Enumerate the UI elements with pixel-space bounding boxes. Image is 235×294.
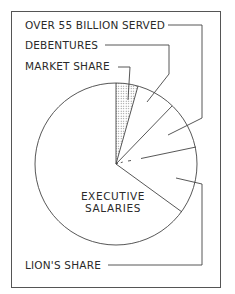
label-lions-share: LION'S SHARE <box>25 259 101 271</box>
leader-over55 <box>168 25 202 135</box>
label-over55: OVER 55 BILLION SERVED <box>25 19 165 31</box>
label-debentures: DEBENTURES <box>25 39 98 51</box>
pie-chart: OVER 55 BILLION SERVED DEBENTURES MARKET… <box>0 0 235 294</box>
label-exec-line2: SALARIES <box>85 202 141 214</box>
leader-debentures <box>105 45 169 102</box>
label-market-share: MARKET SHARE <box>25 60 110 72</box>
label-exec-line1: EXECUTIVE <box>81 190 145 202</box>
